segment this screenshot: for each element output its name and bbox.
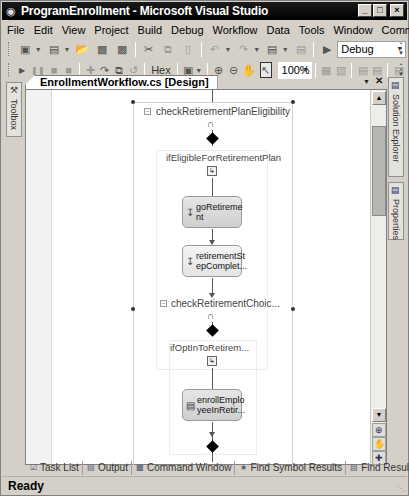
activity-label: enrollEmployeeInRetir... <box>197 395 245 415</box>
menu-view[interactable]: View <box>62 24 92 36</box>
branch-label[interactable]: ifEligibleForRetirementPlan <box>166 152 281 163</box>
connector-line <box>212 178 213 196</box>
properties-label: Properties <box>391 199 401 240</box>
condition-icon: ↳ <box>207 356 217 366</box>
connector-line <box>212 90 213 102</box>
selection-handle[interactable] <box>131 100 135 104</box>
start-debugging-icon[interactable]: ▶ <box>319 41 335 57</box>
properties-tab[interactable]: ▤ Properties <box>388 182 404 240</box>
solution-configuration-combo[interactable]: Debug ▼ <box>337 41 406 58</box>
branch-label[interactable]: ifOptInToRetirem... <box>170 342 249 353</box>
solution-explorer-label: Solution Explorer <box>391 94 401 163</box>
maximize-button[interactable]: □ <box>373 4 387 17</box>
workflow-designer-canvas[interactable]: − checkRetirementPlanEligibility ∩ ifEli… <box>25 89 387 465</box>
scroll-down-icon[interactable]: ▼ <box>372 408 386 422</box>
close-button[interactable]: × <box>390 4 404 17</box>
activity-enroll-employee[interactable]: ▤ enrollEmployeeInRetir... <box>182 389 242 421</box>
tab-enrollment-workflow-design[interactable]: EnrollmentWorkflow.cs [Design] <box>25 75 218 89</box>
selection-handle[interactable] <box>131 307 135 311</box>
toolbar-grip[interactable] <box>8 42 11 56</box>
toolbar-overflow-icon[interactable]: ••▼ <box>398 62 404 78</box>
status-text: Ready <box>8 479 44 493</box>
menu-tools[interactable]: Tools <box>299 24 331 36</box>
chevron-down-icon[interactable]: ▼ <box>195 67 202 74</box>
tab-find-results-1[interactable]: ▤ Find Results 1 <box>346 461 409 475</box>
menu-window[interactable]: Window <box>333 24 378 36</box>
toolbox-tab[interactable]: ⚒ Toolbox <box>6 82 22 137</box>
chevron-down-icon[interactable]: ▼ <box>282 46 289 53</box>
open-file-icon[interactable]: 📂 <box>74 41 90 57</box>
properties-icon: ▤ <box>391 185 401 196</box>
menu-edit[interactable]: Edit <box>34 24 59 36</box>
activity-retirement-step-complete[interactable]: ↧ retirementStepComplet... <box>182 245 242 277</box>
set-state-icon: ↧ <box>186 207 194 218</box>
menu-project[interactable]: Project <box>94 24 134 36</box>
canvas-margin <box>26 90 52 464</box>
collapse-toggle-icon[interactable]: − <box>160 300 167 307</box>
title-bar[interactable]: ◉ ProgramEnrollment - Microsoft Visual S… <box>2 2 407 20</box>
menu-data[interactable]: Data <box>267 24 296 36</box>
scroll-up-icon[interactable]: ▲ <box>372 91 386 105</box>
visual-studio-app-icon: ◉ <box>6 5 18 17</box>
if-else-activity-label[interactable]: checkRetirementChoic... <box>171 298 280 309</box>
save-all-icon[interactable]: ▩ <box>114 41 130 57</box>
close-document-icon[interactable]: ✕ <box>375 75 383 88</box>
task-list-icon: ☑ <box>28 463 38 473</box>
chevron-down-icon: ▼ <box>302 66 309 73</box>
save-icon[interactable]: ▩ <box>94 41 110 57</box>
chevron-down-icon[interactable]: ▼ <box>224 46 231 53</box>
set-state-icon: ↧ <box>186 256 194 267</box>
redo-icon[interactable]: ↷ <box>235 41 251 57</box>
tool-window-tabs: ☑ Task List ▤ Output ▩ Command Window ★ … <box>25 460 408 475</box>
vertical-scrollbar[interactable]: ▲ ▼ ⊕ ✋ ✚ <box>370 90 386 464</box>
collapse-toggle-icon[interactable]: − <box>144 108 151 115</box>
solution-explorer-tab[interactable]: ▤ Solution Explorer <box>388 77 404 177</box>
status-bar: Ready ⋱ <box>2 476 407 495</box>
chevron-down-icon[interactable]: ▼ <box>35 46 42 53</box>
tab-command-window[interactable]: ▩ Command Window <box>132 461 235 475</box>
resize-grip-icon[interactable]: ⋱ <box>397 484 405 493</box>
add-item-icon[interactable]: ▤ <box>46 41 62 57</box>
if-else-activity-label[interactable]: checkRetirementPlanEligibility <box>156 106 290 117</box>
cut-icon[interactable]: ✂ <box>141 41 157 57</box>
menu-file[interactable]: File <box>7 24 31 36</box>
scroll-thumb[interactable] <box>372 126 386 216</box>
navigate-backward-icon[interactable]: ▤ <box>264 41 280 57</box>
toolbar-overflow-icon[interactable]: ••▼ <box>398 41 404 57</box>
active-files-dropdown-icon[interactable]: ▼ <box>363 75 370 88</box>
toolbox-label: Toolbox <box>9 99 19 130</box>
activity-go-retirement[interactable]: ↧ goRetirement <box>182 196 242 228</box>
navigate-forward-icon[interactable]: ▤ <box>293 41 309 57</box>
copy-icon[interactable]: ⧉ <box>160 41 176 57</box>
toolbar-grip[interactable] <box>8 63 10 77</box>
selection-handle[interactable] <box>291 307 295 311</box>
pan-tool-icon[interactable]: ✋ <box>372 437 386 451</box>
if-else-branch-icon: ∩ <box>207 310 214 321</box>
menu-community[interactable]: Community <box>382 24 409 36</box>
find-results-icon: ▤ <box>349 463 359 473</box>
paste-icon[interactable]: ▯ <box>180 41 196 57</box>
minimize-button[interactable]: _ <box>358 4 372 17</box>
selection-handle[interactable] <box>291 100 295 104</box>
new-project-icon[interactable]: ▣ <box>17 41 33 57</box>
tab-output[interactable]: ▤ Output <box>83 461 132 475</box>
menu-workflow[interactable]: Workflow <box>213 24 264 36</box>
connector-line <box>212 368 213 390</box>
command-window-icon: ▩ <box>135 463 145 473</box>
chevron-down-icon[interactable]: ▼ <box>253 46 260 53</box>
menu-debug[interactable]: Debug <box>171 24 209 36</box>
find-symbol-icon: ★ <box>238 463 248 473</box>
output-icon: ▤ <box>86 463 96 473</box>
if-else-branch-icon: ∩ <box>207 118 214 129</box>
document-window: EnrollmentWorkflow.cs [Design] ▼ ✕ − che… <box>25 75 387 457</box>
solution-configuration-value: Debug <box>341 43 373 55</box>
chevron-down-icon[interactable]: ▼ <box>63 46 70 53</box>
window-title: ProgramEnrollment - Microsoft Visual Stu… <box>21 4 268 18</box>
tab-find-symbol-results[interactable]: ★ Find Symbol Results <box>235 461 346 475</box>
undo-icon[interactable]: ↶ <box>207 41 223 57</box>
vs-main-window: ◉ ProgramEnrollment - Microsoft Visual S… <box>0 0 409 496</box>
menu-build[interactable]: Build <box>138 24 168 36</box>
zoom-tool-icon[interactable]: ⊕ <box>372 423 386 437</box>
menu-bar: File Edit View Project Build Debug Workf… <box>2 21 407 38</box>
tab-task-list[interactable]: ☑ Task List <box>25 461 83 475</box>
